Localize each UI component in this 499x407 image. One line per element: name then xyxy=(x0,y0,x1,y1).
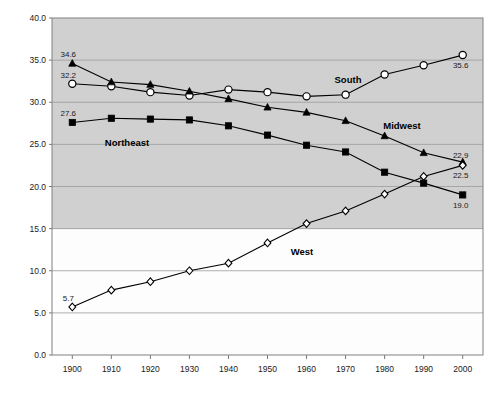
data-point-open-circle xyxy=(303,93,310,100)
y-tick-label: 15.0 xyxy=(29,224,46,234)
series-annotation-south: South xyxy=(335,74,362,85)
start-value-label-south: 32.2 xyxy=(61,71,77,80)
y-axis-tick-labels: 40.035.030.025.020.015.010.05.00.0 xyxy=(29,13,46,360)
data-point-filled-square xyxy=(303,142,309,148)
start-value-label-midwest: 34.6 xyxy=(61,50,77,59)
x-tick-label: 1910 xyxy=(102,364,121,374)
x-tick-marks-group xyxy=(72,355,462,359)
start-value-label-northeast: 27.6 xyxy=(61,109,77,118)
data-point-open-circle xyxy=(147,89,154,96)
data-point-filled-square xyxy=(382,169,388,175)
series-annotation-midwest: Midwest xyxy=(383,120,421,131)
y-tick-label: 35.0 xyxy=(29,55,46,65)
data-point-open-circle xyxy=(381,71,388,78)
data-point-filled-square xyxy=(186,117,192,123)
chart-canvas: 40.035.030.025.020.015.010.05.00.0 19001… xyxy=(0,0,499,407)
data-point-open-circle xyxy=(225,86,232,93)
chart-title-clipped xyxy=(0,0,499,7)
data-point-filled-square xyxy=(342,149,348,155)
x-tick-label: 1930 xyxy=(180,364,199,374)
data-point-filled-square xyxy=(460,192,466,198)
x-tick-label: 1960 xyxy=(297,364,316,374)
data-point-filled-square xyxy=(225,123,231,129)
x-tick-label: 1920 xyxy=(141,364,160,374)
chart-figure: 40.035.030.025.020.015.010.05.00.0 19001… xyxy=(0,0,499,407)
end-value-label-northeast: 19.0 xyxy=(453,201,469,210)
data-point-open-circle xyxy=(342,91,349,98)
y-tick-label: 30.0 xyxy=(29,97,46,107)
y-tick-label: 25.0 xyxy=(29,139,46,149)
x-tick-label: 1990 xyxy=(414,364,433,374)
data-point-open-circle xyxy=(69,80,76,87)
y-tick-label: 10.0 xyxy=(29,266,46,276)
y-tick-label: 20.0 xyxy=(29,182,46,192)
x-tick-label: 2000 xyxy=(453,364,472,374)
data-point-open-circle xyxy=(459,51,466,58)
data-point-open-circle xyxy=(264,89,271,96)
x-tick-label: 1900 xyxy=(63,364,82,374)
series-annotation-northeast: Northeast xyxy=(105,137,150,148)
y-tick-label: 40.0 xyxy=(29,13,46,23)
x-tick-label: 1940 xyxy=(219,364,238,374)
x-tick-label: 1970 xyxy=(336,364,355,374)
x-tick-label: 1980 xyxy=(375,364,394,374)
y-tick-label: 5.0 xyxy=(34,308,46,318)
data-point-filled-square xyxy=(108,115,114,121)
y-tick-label: 0.0 xyxy=(34,350,46,360)
start-value-label-west: 5.7 xyxy=(63,294,75,303)
end-value-label-south: 35.6 xyxy=(453,61,469,70)
data-point-open-circle xyxy=(420,62,427,69)
end-value-label-midwest: 22.9 xyxy=(453,151,469,160)
x-tick-label: 1950 xyxy=(258,364,277,374)
plot-background-lower xyxy=(52,229,483,355)
data-point-filled-square xyxy=(147,116,153,122)
data-point-filled-square xyxy=(264,132,270,138)
x-axis-tick-labels: 1900191019201930194019501960197019801990… xyxy=(63,364,473,374)
series-annotation-west: West xyxy=(291,246,314,257)
data-point-filled-square xyxy=(69,119,75,125)
end-value-label-west: 22.5 xyxy=(453,171,469,180)
